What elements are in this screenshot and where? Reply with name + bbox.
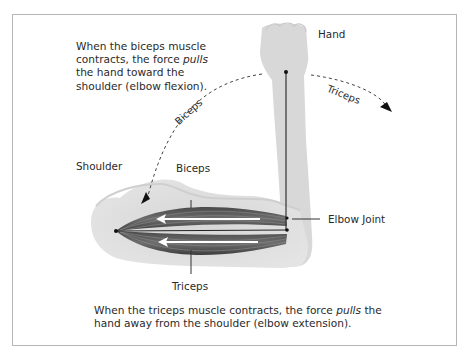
label-hand: Hand — [318, 28, 345, 41]
label-triceps: Triceps — [172, 280, 208, 293]
label-shoulder: Shoulder — [76, 160, 122, 173]
arm-illustration — [0, 0, 464, 351]
top-caption-line3: the hand toward the — [76, 66, 208, 79]
bottom-caption: When the triceps muscle contracts, the f… — [94, 304, 382, 330]
elbow-joint-dot — [285, 228, 289, 232]
hand-point-dot — [284, 70, 288, 74]
label-biceps: Biceps — [176, 162, 210, 175]
top-caption-line4: shoulder (elbow flexion). — [76, 80, 208, 93]
top-caption-line1: When the biceps muscle — [76, 40, 208, 53]
bottom-caption-line2: hand away from the shoulder (elbow exten… — [94, 317, 382, 330]
top-caption-line2: contracts, the force pulls — [76, 53, 208, 66]
label-elbow-joint: Elbow Joint — [328, 213, 385, 226]
shoulder-attachment-dot — [114, 229, 118, 233]
bottom-caption-line1: When the triceps muscle contracts, the f… — [94, 304, 382, 317]
top-caption: When the biceps muscle contracts, the fo… — [76, 40, 208, 93]
